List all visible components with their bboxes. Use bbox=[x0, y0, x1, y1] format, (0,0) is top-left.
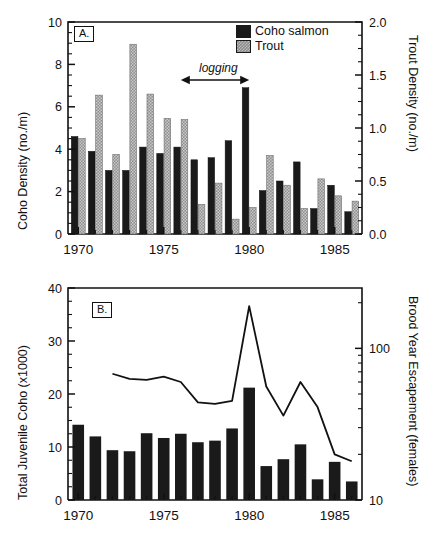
bar-juvenile-coho bbox=[278, 459, 290, 500]
svg-text:20: 20 bbox=[48, 388, 62, 402]
svg-text:1.0: 1.0 bbox=[369, 122, 386, 136]
bar-trout bbox=[250, 208, 257, 235]
bar-juvenile-coho bbox=[158, 438, 170, 500]
bar-coho bbox=[157, 153, 164, 234]
panel-b-plot: 010203040101001970197519801985 bbox=[0, 274, 433, 548]
svg-text:1970: 1970 bbox=[63, 242, 93, 257]
panel-a-plot: 02468100.00.51.01.52.01970197519801985 bbox=[0, 0, 433, 274]
bar-trout bbox=[147, 94, 154, 234]
bar-juvenile-coho bbox=[295, 444, 307, 500]
svg-text:1.5: 1.5 bbox=[369, 69, 386, 83]
svg-text:1980: 1980 bbox=[234, 242, 264, 257]
bar-coho bbox=[276, 181, 283, 234]
svg-text:0: 0 bbox=[55, 228, 62, 242]
svg-text:6: 6 bbox=[55, 100, 62, 114]
svg-text:4: 4 bbox=[55, 143, 62, 157]
bar-coho bbox=[345, 212, 352, 234]
bar-coho bbox=[123, 170, 130, 234]
svg-text:1985: 1985 bbox=[320, 242, 350, 257]
svg-text:1975: 1975 bbox=[149, 242, 179, 257]
bar-coho bbox=[259, 191, 266, 234]
svg-text:0.5: 0.5 bbox=[369, 175, 386, 189]
bar-coho bbox=[294, 162, 301, 234]
bar-juvenile-coho bbox=[90, 436, 102, 500]
bar-trout bbox=[301, 209, 308, 234]
bar-trout bbox=[181, 120, 188, 234]
svg-text:2: 2 bbox=[55, 185, 62, 199]
svg-text:0.0: 0.0 bbox=[369, 228, 386, 242]
panel-b: Total Juvenile Coho (x1000) Brood Year E… bbox=[0, 274, 433, 548]
svg-text:40: 40 bbox=[48, 282, 62, 296]
bar-trout bbox=[232, 219, 239, 234]
bar-trout bbox=[164, 118, 171, 234]
bar-coho bbox=[88, 151, 95, 234]
bar-juvenile-coho bbox=[72, 425, 84, 500]
bar-juvenile-coho bbox=[124, 451, 136, 500]
bar-coho bbox=[140, 147, 147, 234]
bar-coho bbox=[328, 185, 335, 234]
svg-text:1970: 1970 bbox=[63, 508, 93, 523]
bar-juvenile-coho bbox=[192, 442, 204, 500]
bar-trout bbox=[352, 201, 359, 234]
svg-text:10: 10 bbox=[48, 441, 62, 455]
bar-coho bbox=[242, 88, 249, 234]
bar-juvenile-coho bbox=[260, 466, 272, 500]
bar-coho bbox=[311, 209, 318, 234]
bar-juvenile-coho bbox=[107, 450, 119, 500]
bar-trout bbox=[79, 139, 86, 234]
svg-text:10: 10 bbox=[48, 16, 62, 30]
bar-trout bbox=[335, 196, 342, 234]
svg-text:8: 8 bbox=[55, 58, 62, 72]
bar-coho bbox=[105, 170, 112, 234]
bar-trout bbox=[130, 44, 137, 234]
bar-trout bbox=[318, 179, 325, 234]
svg-text:1985: 1985 bbox=[320, 508, 350, 523]
bar-juvenile-coho bbox=[209, 441, 221, 500]
svg-text:10: 10 bbox=[369, 494, 383, 508]
svg-text:100: 100 bbox=[369, 342, 390, 356]
svg-text:2.0: 2.0 bbox=[369, 16, 386, 30]
panel-a: Coho Density (no./m) Trout Density (no./… bbox=[0, 0, 433, 274]
bar-juvenile-coho bbox=[141, 433, 153, 500]
bar-juvenile-coho bbox=[243, 388, 255, 500]
svg-text:1975: 1975 bbox=[149, 508, 179, 523]
bar-coho bbox=[174, 147, 181, 234]
svg-text:30: 30 bbox=[48, 335, 62, 349]
bar-coho bbox=[225, 141, 232, 234]
bar-coho bbox=[71, 136, 78, 234]
svg-text:0: 0 bbox=[55, 494, 62, 508]
bar-juvenile-coho bbox=[226, 428, 238, 500]
bar-trout bbox=[113, 155, 120, 235]
bar-juvenile-coho bbox=[175, 434, 187, 500]
bar-trout bbox=[198, 204, 205, 234]
bar-trout bbox=[284, 185, 291, 234]
figure-container: Coho Density (no./m) Trout Density (no./… bbox=[0, 0, 433, 548]
bar-trout bbox=[267, 156, 274, 234]
logging-arrow-head-left bbox=[181, 76, 190, 84]
bar-coho bbox=[191, 160, 198, 234]
bar-trout bbox=[215, 183, 222, 234]
bar-coho bbox=[208, 158, 215, 234]
logging-arrow-head-right bbox=[240, 76, 249, 84]
svg-text:1980: 1980 bbox=[234, 508, 264, 523]
bar-trout bbox=[96, 95, 103, 234]
